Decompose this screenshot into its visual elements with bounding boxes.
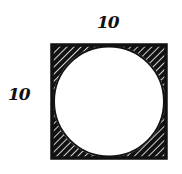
top-side-label: 10 <box>97 12 119 32</box>
left-side-label: 10 <box>8 84 30 104</box>
inscribed-circle <box>54 47 164 157</box>
